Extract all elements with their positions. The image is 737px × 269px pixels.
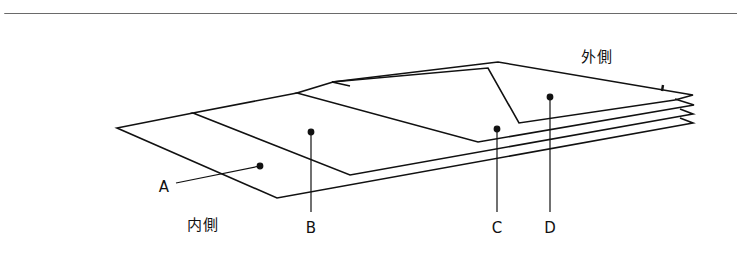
leader-line-a — [176, 166, 260, 183]
tick-mark — [662, 85, 663, 91]
sheet-label-b: B — [306, 221, 316, 236]
sheet-label-c: C — [492, 221, 502, 236]
dot-a — [257, 163, 263, 169]
sheet-a-outline — [117, 113, 693, 198]
dot-c — [494, 126, 500, 132]
sheet-label-d: D — [544, 221, 556, 236]
inner-side-label: 内側 — [187, 218, 219, 233]
sheet-b-outline — [193, 93, 693, 175]
sheet-label-a: A — [159, 180, 169, 195]
sheet-d-outer-outline — [332, 62, 693, 100]
dot-d — [547, 94, 553, 100]
dot-b — [308, 129, 314, 135]
layered-sheets-diagram — [0, 0, 737, 269]
outer-side-label: 外側 — [581, 50, 613, 65]
